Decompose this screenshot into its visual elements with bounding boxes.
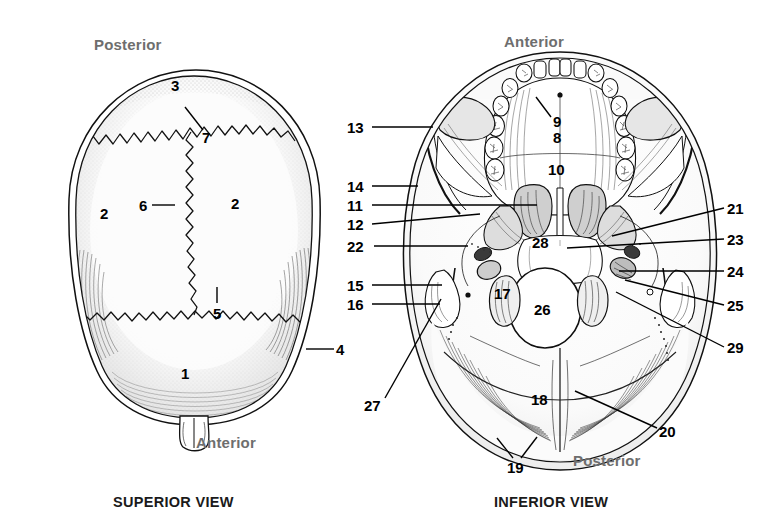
callout-number-superior-3: 3 [171, 78, 179, 93]
callout-number-inferior-15: 15 [347, 278, 364, 293]
callout-number-inferior-24: 24 [727, 264, 744, 279]
figure-canvas: SUPERIOR VIEWPosteriorAnterior37262541IN… [0, 0, 783, 532]
view-title-superior: SUPERIOR VIEW [113, 494, 234, 510]
orientation-label-superior-anterior: Anterior [196, 434, 256, 451]
callout-number-superior-1: 1 [181, 366, 189, 381]
callout-number-inferior-16: 16 [347, 297, 364, 312]
skull-illustrations [0, 0, 783, 532]
callout-number-inferior-18: 18 [531, 392, 548, 407]
callout-number-inferior-21: 21 [727, 201, 744, 216]
callout-number-inferior-20: 20 [659, 424, 676, 439]
callout-number-superior-2R: 2 [231, 196, 239, 211]
callout-number-inferior-28: 28 [532, 235, 549, 250]
superior-skull-drawing [60, 60, 340, 451]
callout-number-superior-6: 6 [139, 198, 147, 213]
callout-number-inferior-19: 19 [507, 460, 524, 475]
orientation-label-inferior-anterior: Anterior [504, 33, 564, 50]
orientation-label-superior-posterior: Posterior [94, 36, 162, 53]
orientation-label-inferior-posterior: Posterior [573, 452, 641, 469]
view-title-inferior: INFERIOR VIEW [494, 494, 608, 510]
callout-number-inferior-11: 11 [347, 198, 363, 213]
callout-number-superior-5: 5 [213, 306, 221, 321]
callout-number-inferior-23: 23 [727, 232, 744, 247]
callout-number-inferior-13: 13 [347, 120, 364, 135]
callout-number-superior-2L: 2 [100, 206, 108, 221]
callout-number-inferior-12: 12 [347, 217, 364, 232]
callout-number-inferior-9: 9 [553, 114, 561, 129]
callout-number-inferior-29: 29 [727, 340, 744, 355]
callout-number-inferior-8: 8 [553, 130, 561, 145]
callout-number-superior-7: 7 [202, 130, 210, 145]
callout-number-inferior-27: 27 [364, 398, 381, 413]
callout-number-inferior-26: 26 [534, 302, 551, 317]
callout-number-inferior-14: 14 [347, 179, 364, 194]
callout-number-inferior-10: 10 [548, 162, 565, 177]
callout-number-inferior-25: 25 [727, 298, 744, 313]
callout-number-inferior-17: 17 [494, 286, 511, 301]
callout-number-superior-4: 4 [336, 342, 344, 357]
callout-number-inferior-22: 22 [347, 239, 364, 254]
